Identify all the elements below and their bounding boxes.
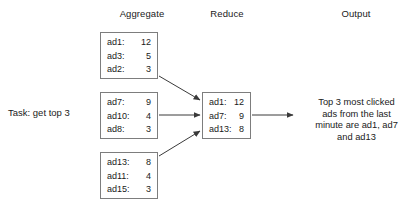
data-row: ad1: 12 xyxy=(209,96,244,110)
data-row: ad7: 9 xyxy=(107,96,151,110)
data-row: ad13: 8 xyxy=(107,156,151,170)
row-value: 4 xyxy=(142,110,151,124)
row-key: ad7: xyxy=(107,96,125,110)
row-key: ad1: xyxy=(107,36,125,50)
row-value: 3 xyxy=(142,183,151,197)
mapreduce-diagram: Aggregate Reduce Output Task: get top 3 … xyxy=(0,0,418,214)
output-line: ads from the last xyxy=(300,109,413,121)
data-row: ad8: 3 xyxy=(107,123,151,137)
output-line: minute are ad1, ad7 xyxy=(300,120,413,132)
row-value: 3 xyxy=(142,63,151,77)
row-key: ad1: xyxy=(209,96,227,110)
data-row: ad2: 3 xyxy=(107,63,151,77)
output-line: and ad13 xyxy=(300,132,413,144)
row-value: 9 xyxy=(235,110,244,124)
row-key: ad11: xyxy=(107,170,129,184)
row-value: 12 xyxy=(137,36,151,50)
output-line: Top 3 most clicked xyxy=(300,97,413,109)
data-row: ad7: 9 xyxy=(209,110,244,124)
row-key: ad15: xyxy=(107,183,130,197)
row-key: ad10: xyxy=(107,110,130,124)
row-value: 9 xyxy=(142,96,151,110)
data-row: ad13: 8 xyxy=(209,123,244,137)
data-row: ad1: 12 xyxy=(107,36,151,50)
row-value: 3 xyxy=(142,123,151,137)
row-key: ad13: xyxy=(107,156,130,170)
row-key: ad13: xyxy=(209,123,232,137)
row-value: 4 xyxy=(142,170,151,184)
row-key: ad8: xyxy=(107,123,125,137)
row-value: 12 xyxy=(230,96,244,110)
data-row: ad3: 5 xyxy=(107,50,151,64)
data-row: ad10: 4 xyxy=(107,110,151,124)
aggregate-box: ad7: 9 ad10: 4 ad8: 3 xyxy=(100,92,158,139)
data-row: ad11: 4 xyxy=(107,170,151,184)
task-label: Task: get top 3 xyxy=(8,107,100,118)
arrow-aggregate3-to-reduce xyxy=(159,131,200,156)
row-value: 8 xyxy=(142,156,151,170)
aggregate-box: ad13: 8 ad11: 4 ad15: 3 xyxy=(100,152,158,199)
reduce-box: ad1: 12 ad7: 9 ad13: 8 xyxy=(202,92,251,139)
row-key: ad3: xyxy=(107,50,125,64)
row-value: 8 xyxy=(235,123,244,137)
row-key: ad7: xyxy=(209,110,227,124)
column-header-output: Output xyxy=(300,8,412,19)
row-key: ad2: xyxy=(107,63,125,77)
column-header-aggregate: Aggregate xyxy=(100,8,184,19)
column-header-reduce: Reduce xyxy=(196,8,258,19)
output-description: Top 3 most clicked ads from the last min… xyxy=(300,97,413,143)
aggregate-box: ad1: 12 ad3: 5 ad2: 3 xyxy=(100,32,158,79)
row-value: 5 xyxy=(142,50,151,64)
data-row: ad15: 3 xyxy=(107,183,151,197)
arrow-aggregate1-to-reduce xyxy=(159,76,200,100)
